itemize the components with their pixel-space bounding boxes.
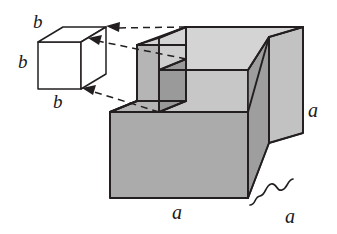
label-b-bottom: b	[53, 92, 63, 111]
arrowhead-top	[106, 22, 120, 32]
label-b-top: b	[33, 12, 43, 31]
removed-cube	[38, 27, 106, 89]
geometric-figure	[0, 0, 337, 234]
label-a-right: a	[308, 100, 318, 120]
cube-face-front-lower	[110, 112, 248, 198]
inset-cube-front-face	[38, 42, 81, 89]
label-b-left: b	[18, 52, 28, 71]
dashed-arrow-top	[112, 27, 186, 28]
label-a-depth: a	[285, 206, 295, 226]
label-a-bottom: a	[172, 202, 182, 222]
depth-brace	[250, 179, 293, 205]
cube-face-right	[269, 27, 303, 143]
large-cube	[110, 27, 303, 198]
